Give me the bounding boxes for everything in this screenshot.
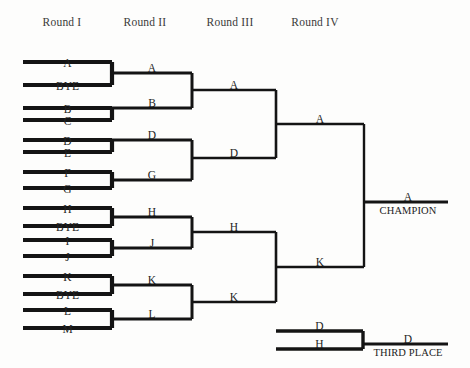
round2-label-j-6: J (150, 237, 154, 249)
round3-label-h-3: H (230, 221, 238, 233)
round1-label-bye-14: BYE (56, 289, 79, 301)
round1-label-bye-10: BYE (56, 221, 79, 233)
round1-label-k-13: K (63, 271, 71, 283)
round1-label-l-15: L (64, 305, 71, 317)
round2-label-l-8: L (148, 308, 155, 320)
round-header-3: Round III (207, 16, 254, 28)
round1-label-m-16: M (62, 323, 72, 335)
round2-label-g-4: G (148, 169, 156, 181)
round-header-2: Round II (124, 16, 167, 28)
third-place-label-h: H (315, 338, 323, 350)
tournament-bracket-page: Round IRound IIRound IIIRound IV ABYEBCD… (0, 0, 470, 368)
round-header-4: Round IV (291, 16, 338, 28)
round2-label-k-7: K (148, 274, 156, 286)
round1-label-j-12: J (65, 251, 69, 263)
third-place-title-label: THIRD PLACE (373, 347, 442, 358)
round3-label-k-4: K (230, 291, 238, 303)
round1-label-i-11: I (66, 235, 70, 247)
round1-label-h-9: H (63, 203, 71, 215)
round4-label-k-2: K (316, 256, 324, 268)
round4-label-a-1: A (316, 113, 324, 125)
round1-label-b-3: B (64, 103, 72, 115)
round1-label-e-6: E (64, 147, 71, 159)
round-header-1: Round I (43, 16, 82, 28)
round3-label-a-1: A (230, 79, 238, 91)
round2-label-a-1: A (148, 62, 156, 74)
third-place-winner-label: D (404, 333, 412, 345)
champion-title-label: CHAMPION (380, 205, 437, 216)
round1-label-f-7: F (64, 167, 70, 179)
round1-label-a-1: A (63, 57, 71, 69)
round4-lines-group (276, 124, 364, 267)
round2-label-d-3: D (148, 129, 156, 141)
round3-lines-group (192, 90, 276, 302)
champion-winner-label: A (404, 191, 412, 203)
round2-label-h-5: H (148, 206, 156, 218)
round3-label-d-2: D (230, 147, 238, 159)
round1-label-g-8: G (63, 183, 71, 195)
round2-label-b-2: B (148, 97, 156, 109)
round1-label-d-5: D (63, 135, 71, 147)
round1-label-bye-2: BYE (56, 80, 79, 92)
third-place-label-d: D (315, 320, 323, 332)
round1-label-c-4: C (64, 115, 72, 127)
